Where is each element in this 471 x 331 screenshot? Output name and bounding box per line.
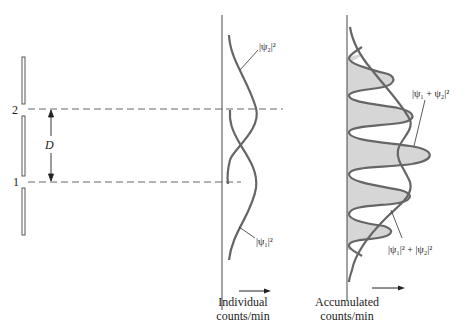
accumulated-axis-label-line2: counts/min: [320, 309, 373, 323]
slit-label-2: 2: [12, 103, 18, 117]
individual-axis-label-line2: counts/min: [216, 309, 269, 323]
barrier-segment-top: [22, 57, 25, 104]
interference-leader: [414, 100, 425, 146]
psi2-leader: [240, 50, 258, 70]
individual-panel: |ψ₂|² |ψ₁|² Individual counts/min: [216, 15, 275, 323]
individual-axis-label-line1: Individual: [218, 295, 268, 309]
psi1-leader: [239, 227, 255, 238]
arrow-head-up: [49, 110, 54, 117]
psi2-label: |ψ₂|²: [259, 41, 276, 52]
psi1-label: |ψ₁|²: [256, 236, 273, 247]
individual-arrow-head: [264, 289, 271, 294]
separation-label: D: [44, 138, 54, 152]
slit-label-1: 1: [13, 175, 19, 189]
arrow-head-down: [49, 174, 54, 181]
psi2-curve: [228, 35, 257, 184]
slit-barrier: [22, 57, 25, 235]
accumulated-panel: |ψ₁ + ψ₂|² |ψ₁|² + |ψ₂|² Accumulated cou…: [315, 15, 449, 323]
interference-label: |ψ₁ + ψ₂|²: [412, 88, 449, 99]
barrier-segment-middle: [22, 116, 25, 176]
accumulated-axis-label-line1: Accumulated: [315, 295, 379, 309]
barrier-segment-bottom: [22, 188, 25, 235]
double-slit-diagram: 2 1 D |ψ₂|² |ψ₁|² Individual counts/min: [0, 0, 471, 331]
accumulated-arrow-head: [398, 286, 405, 291]
classical-sum-leader: [391, 210, 402, 238]
classical-sum-label: |ψ₁|² + |ψ₂|²: [388, 244, 432, 255]
dashed-guides: [28, 109, 283, 182]
psi1-curve: [229, 110, 256, 260]
